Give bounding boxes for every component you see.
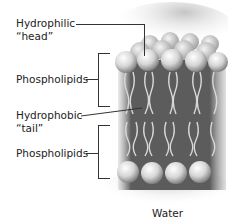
label-hydrophobic: Hydrophobic	[16, 110, 82, 121]
label-tail: “tail”	[16, 123, 43, 134]
label-water: Water	[152, 208, 183, 219]
label-head: “head”	[16, 31, 53, 42]
bottom-bracket-vertical	[98, 125, 99, 179]
bottom-bracket-top	[98, 125, 110, 126]
bottom-bracket-bottom	[98, 178, 110, 179]
label-phospholipids-top: Phospholipids	[16, 74, 88, 85]
label-phospholipids-bottom: Phospholipids	[16, 148, 88, 159]
label-hydrophilic: Hydrophilic	[16, 18, 75, 29]
